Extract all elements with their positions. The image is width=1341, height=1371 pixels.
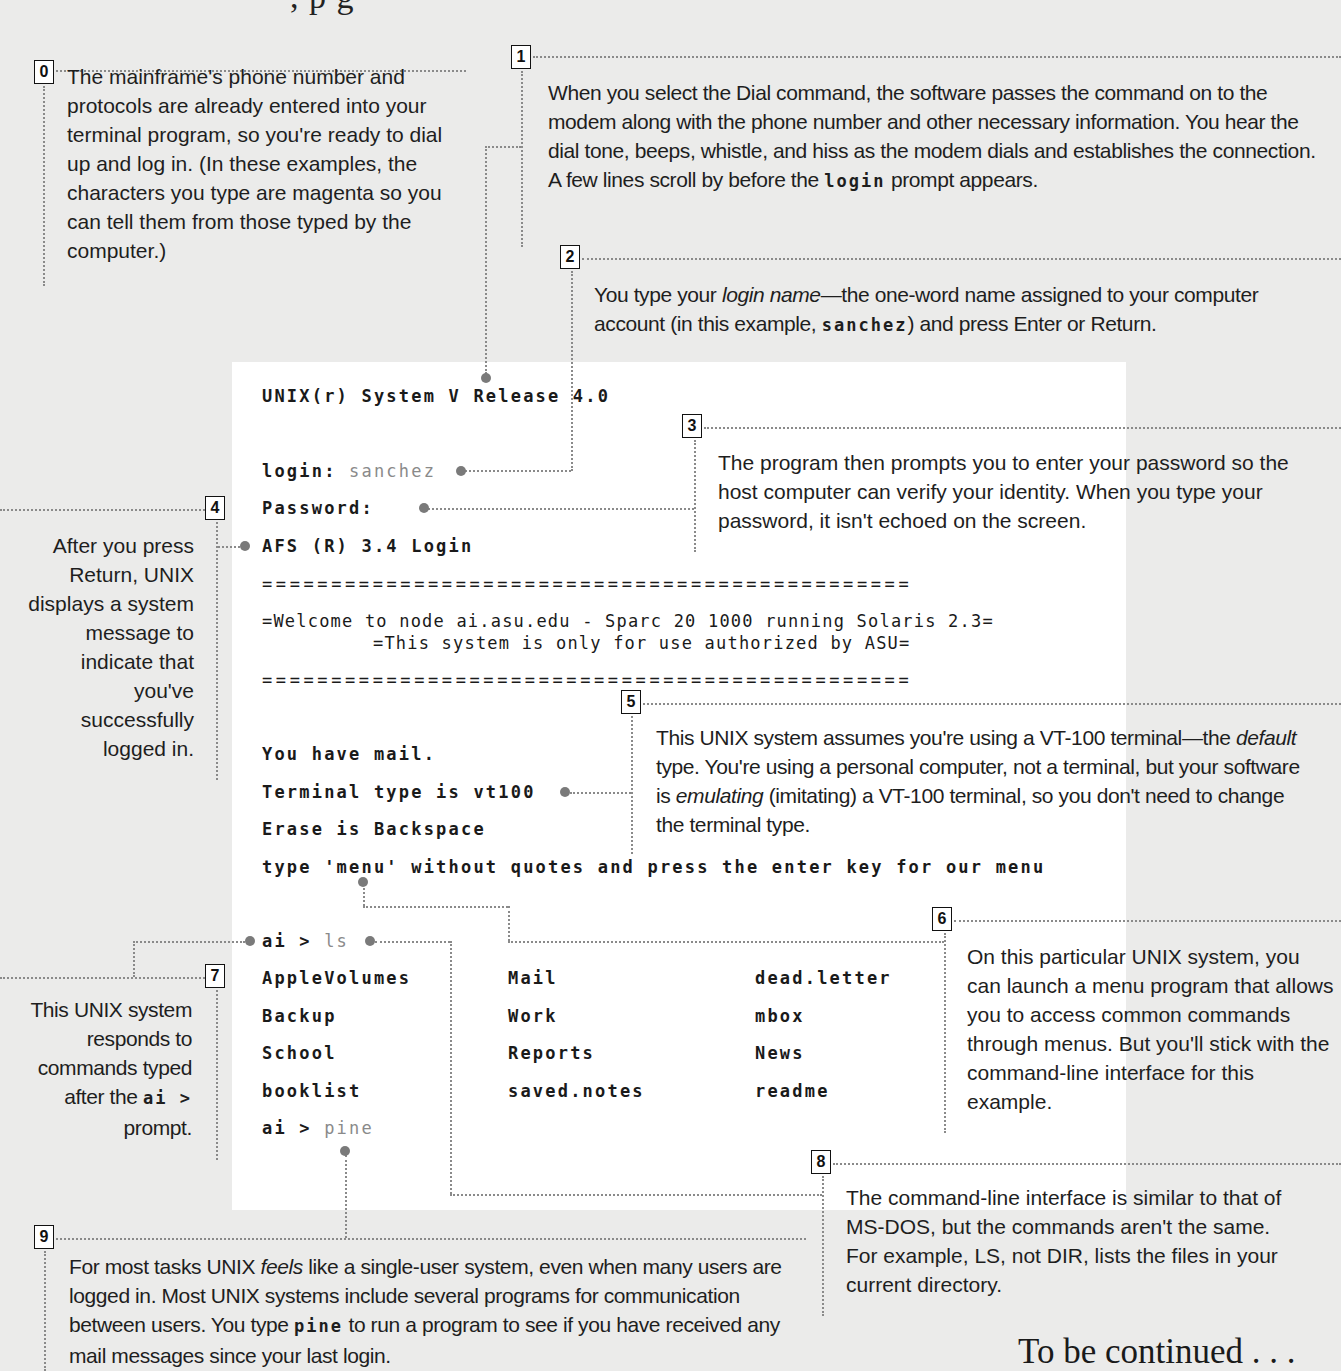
connector-line — [485, 146, 521, 148]
callout-text-1: When you select the Dial command, the so… — [548, 78, 1328, 196]
callout-number-5: 5 — [621, 690, 641, 714]
callout-number-1: 1 — [511, 45, 531, 69]
ls-entry: readme — [755, 1081, 830, 1101]
callout-text-4: After you press Return, UNIX displays a … — [20, 531, 194, 763]
callout-text-6: On this particular UNIX system, you can … — [967, 942, 1337, 1116]
inline-code: ai > — [143, 1088, 192, 1108]
callout-text-5: This UNIX system assumes you're using a … — [656, 723, 1306, 839]
connector-dot — [240, 541, 250, 551]
ls-entry: mbox — [755, 1006, 805, 1026]
inline-code: sanchez — [822, 315, 908, 335]
callout-italic: emulating — [676, 784, 763, 807]
terminal-line-mail: You have mail. — [262, 744, 436, 764]
connector-line — [363, 906, 508, 908]
callout-text-7: This UNIX system responds to commands ty… — [20, 995, 192, 1142]
callout-number-4: 4 — [205, 496, 225, 520]
callout-number-7: 7 — [205, 964, 225, 988]
connector-dot — [365, 936, 375, 946]
connector-line — [450, 1194, 822, 1196]
connector-line — [704, 427, 1341, 429]
connector-line — [485, 146, 487, 374]
connector-dot — [245, 936, 255, 946]
callout-text-segment: This UNIX system assumes you're using a … — [656, 726, 1236, 749]
connector-line — [631, 716, 633, 854]
ls-entry: Work — [508, 1006, 558, 1026]
connector-line — [216, 990, 218, 1160]
callout-italic: login name — [722, 283, 821, 306]
connector-line — [570, 792, 631, 794]
connector-line — [833, 1163, 1341, 1165]
connector-line — [43, 86, 45, 286]
cut-off-heading: , p g — [290, 0, 355, 16]
connector-line — [571, 271, 573, 471]
ls-typed-text: ls — [324, 931, 349, 951]
connector-line — [533, 56, 1341, 58]
shell-prompt: ai > — [262, 1118, 324, 1138]
terminal-line-pine-command: ai > pine — [262, 1118, 374, 1138]
terminal-line-menu-hint: type 'menu' without quotes and press the… — [262, 857, 1045, 877]
callout-text-segment: prompt. — [124, 1116, 192, 1139]
connector-line — [375, 941, 450, 943]
terminal-line-terminal-type: Terminal type is vt100 — [262, 782, 536, 802]
connector-line — [954, 920, 1341, 922]
connector-line — [363, 884, 365, 906]
connector-dot — [560, 787, 570, 797]
connector-line — [428, 508, 694, 510]
ls-entry: Reports — [508, 1043, 595, 1063]
to-be-continued: To be continued . . . — [1018, 1332, 1296, 1371]
terminal-rule-bottom: ========================================… — [262, 670, 912, 690]
inline-code: pine — [294, 1316, 343, 1336]
connector-line — [450, 941, 452, 1194]
terminal-line-ls-command: ai > ls — [262, 931, 349, 951]
terminal-line-erase: Erase is Backspace — [262, 819, 486, 839]
callout-number-2: 2 — [560, 245, 580, 269]
callout-text-0: The mainframe's phone number and protoco… — [67, 62, 457, 265]
callout-text-segment: ) and press Enter or Return. — [907, 312, 1156, 335]
terminal-line-welcome: =Welcome to node ai.asu.edu - Sparc 20 1… — [262, 611, 994, 631]
callout-italic: feels — [261, 1255, 303, 1278]
ls-entry: School — [262, 1043, 337, 1063]
callout-text-2: You type your login name—the one-word na… — [594, 280, 1334, 340]
terminal-line-login: login: sanchez — [262, 461, 436, 481]
connector-line — [521, 71, 523, 247]
ls-entry: Backup — [262, 1006, 337, 1026]
callout-text-segment: You type your — [594, 283, 722, 306]
shell-prompt: ai > — [262, 931, 324, 951]
callout-number-8: 8 — [811, 1150, 831, 1174]
callout-number-6: 6 — [932, 907, 952, 931]
terminal-line-afs: AFS (R) 3.4 Login — [262, 536, 473, 556]
callout-number-0: 0 — [34, 60, 54, 84]
connector-line — [56, 1238, 806, 1240]
connector-line — [694, 440, 696, 552]
callout-text-9: For most tasks UNIX feels like a single-… — [69, 1252, 809, 1370]
callout-number-9: 9 — [34, 1225, 54, 1249]
connector-line — [465, 470, 571, 472]
connector-dot — [419, 503, 429, 513]
connector-dot — [358, 877, 368, 887]
connector-dot — [481, 373, 491, 383]
connector-line — [0, 977, 205, 979]
callout-italic: default — [1236, 726, 1296, 749]
terminal-line-password: Password: — [262, 498, 374, 518]
connector-line — [216, 522, 218, 780]
ls-entry: Mail — [508, 968, 558, 988]
ls-entry: booklist — [262, 1081, 361, 1101]
connector-line — [133, 941, 245, 943]
callout-number-3: 3 — [682, 414, 702, 438]
login-prompt: login: — [262, 461, 349, 481]
connector-dot — [340, 1146, 350, 1156]
ls-entry: AppleVolumes — [262, 968, 411, 988]
login-typed-text: sanchez — [349, 461, 436, 481]
connector-line — [0, 509, 205, 511]
pine-typed-text: pine — [324, 1118, 374, 1138]
inline-code: login — [824, 171, 885, 191]
connector-line — [508, 941, 944, 943]
ls-entry: dead.letter — [755, 968, 892, 988]
ls-entry: News — [755, 1043, 805, 1063]
ls-entry: saved.notes — [508, 1081, 645, 1101]
connector-line — [44, 1251, 46, 1371]
connector-dot — [456, 466, 466, 476]
terminal-line-authorized: =This system is only for use authorized … — [373, 633, 910, 653]
connector-line — [643, 703, 1341, 705]
connector-line — [944, 933, 946, 1133]
